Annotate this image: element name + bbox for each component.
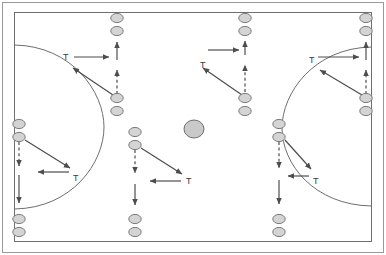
cone-marker-icon [13,132,25,141]
cone-marker-icon [360,106,372,115]
cone-marker-icon [129,227,141,236]
cone-marker-icon [111,93,123,102]
solid-arrow [320,70,362,95]
cone-marker-icon [129,127,141,136]
cone-marker-icon [239,13,251,22]
cone-marker-icon [13,214,25,223]
trainer-position-label: T [186,177,192,186]
cone-marker-icon [360,93,372,102]
cone-marker-icon [13,227,25,236]
center-ball-icon [184,120,204,138]
cone-marker-icon [273,119,285,128]
cone-marker-icon [111,13,123,22]
cone-marker-icon [239,93,251,102]
cone-marker-icon [111,106,123,115]
solid-arrow [141,148,182,174]
cone-marker-icon [239,26,251,35]
cone-marker-icon [111,26,123,35]
trainer-position-label: T [63,53,69,62]
cone-marker-icon [239,106,251,115]
pitch-svg [0,0,386,255]
solid-arrow [25,140,70,168]
solid-arrow [285,140,311,169]
drill-diagram-canvas: TTTTTT [0,0,386,255]
cone-marker-icon [13,119,25,128]
cone-marker-icon [360,26,372,35]
trainer-position-label: T [200,61,206,70]
trainer-position-label: T [309,56,315,65]
solid-arrow [203,68,242,95]
cone-marker-icon [129,214,141,223]
dashed-arrow-layer [19,65,366,173]
right-penalty-arc [282,47,372,206]
cone-marker-icon [360,13,372,22]
cone-marker-icon [129,140,141,149]
left-penalty-arc [15,45,105,209]
cone-marker-icon [273,227,285,236]
trainer-position-label: T [313,177,319,186]
cone-marker-icon [273,132,285,141]
cone-marker-icon [273,214,285,223]
solid-arrow [73,68,113,95]
trainer-position-label: T [73,174,79,183]
